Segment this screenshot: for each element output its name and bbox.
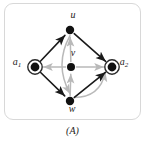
node-label-a1: a1 (9, 57, 25, 70)
node-label-sub-a2: 2 (125, 61, 129, 69)
node-label-sub-a1: 1 (18, 61, 22, 69)
node-label-a2: a2 (116, 57, 132, 70)
node-a1 (31, 63, 40, 72)
edge-a1-to-w (40, 72, 64, 96)
node-label-w: w (64, 104, 80, 114)
edge-a1-to-u (40, 35, 65, 61)
figure-caption: (A) (0, 125, 145, 136)
node-group (28, 26, 119, 105)
node-label-u: u (65, 10, 81, 20)
node-v (67, 63, 75, 71)
edge-w-to-v (70, 74, 71, 95)
node-label-v: v (65, 48, 81, 58)
node-u (66, 26, 74, 34)
figure-panel-A: ua1va2w (A) (0, 0, 145, 149)
